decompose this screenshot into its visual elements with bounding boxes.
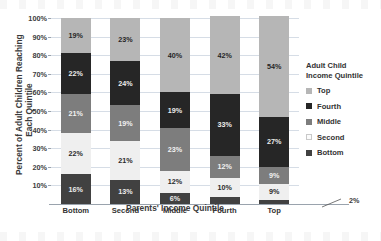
segment-value-label: 12% — [217, 163, 231, 170]
segment-value-label: 33% — [217, 121, 231, 128]
segment-value-label: 9% — [269, 188, 279, 195]
y-axis-tick-label: 80% — [32, 51, 47, 60]
segment-value-label: 23% — [118, 36, 132, 43]
segment-value-label: 19% — [168, 107, 182, 114]
legend-item-label: Bottom — [317, 148, 344, 157]
segment-value-label: 27% — [267, 138, 281, 145]
y-axis-tick-label: 70% — [32, 69, 47, 78]
bar-column-top[interactable]: 2%9%9%27%54% — [259, 16, 289, 204]
y-axis-tick-label: 40% — [32, 125, 47, 134]
scan-artifact-top — [0, 0, 381, 9]
legend-item-second[interactable]: Second — [306, 133, 378, 142]
y-axis-tick-label: 30% — [32, 144, 47, 153]
y-axis-tick-label: 10% — [32, 181, 47, 190]
bar-segment-fourth-middle[interactable]: 12% — [210, 156, 240, 178]
y-axis-tick-label: 100% — [28, 14, 47, 23]
scan-artifact-bottom — [0, 232, 381, 241]
bar-column-fourth[interactable]: 4%10%12%33%42% — [210, 16, 240, 204]
bar-segment-second-middle[interactable]: 19% — [110, 105, 140, 140]
x-axis-title: Parents' Income Quintile — [51, 203, 299, 213]
y-axis-title: Percent of Adult Children Reaching Each … — [14, 45, 34, 175]
legend-swatch-fourth-icon — [306, 103, 312, 109]
bar-segment-middle-top[interactable]: 40% — [160, 18, 190, 92]
y-axis-tick-mark — [48, 148, 51, 149]
legend-item-middle[interactable]: Middle — [306, 117, 378, 126]
legend-item-top[interactable]: Top — [306, 86, 378, 95]
segment-value-label: 10% — [217, 184, 231, 191]
segment-value-label: 12% — [168, 178, 182, 185]
legend-swatch-middle-icon — [306, 119, 312, 125]
legend-swatch-second-icon — [306, 134, 312, 140]
plot-area: 10%20%30%40%50%60%70%80%90%100%16%22%21%… — [51, 18, 299, 204]
bar-segment-middle-fourth[interactable]: 19% — [160, 92, 190, 127]
bar-column-middle[interactable]: 6%12%23%19%40% — [160, 18, 190, 204]
chart-container: Percent of Adult Children Reaching Each … — [0, 0, 381, 241]
bar-column-bottom[interactable]: 16%22%21%22%19% — [61, 18, 91, 204]
bar-segment-bottom-second[interactable]: 22% — [61, 133, 91, 174]
segment-value-label: 19% — [118, 120, 132, 127]
segment-value-label: 16% — [69, 186, 83, 193]
y-axis-tick-mark — [48, 167, 51, 168]
segment-value-label: 13% — [118, 188, 132, 195]
y-axis-tick-label: 90% — [32, 32, 47, 41]
bar-segment-fourth-fourth[interactable]: 33% — [210, 94, 240, 155]
legend-title: Adult Child Income Quintile — [306, 61, 378, 80]
y-axis-tick-label: 50% — [32, 107, 47, 116]
segment-value-label: 21% — [69, 110, 83, 117]
annotation-2-percent: 2% — [349, 196, 359, 205]
legend-swatch-bottom-icon — [306, 150, 312, 156]
bar-segment-fourth-top[interactable]: 42% — [210, 16, 240, 94]
y-axis-tick-label: 60% — [32, 88, 47, 97]
segment-value-label: 21% — [118, 157, 132, 164]
segment-value-label: 19% — [69, 32, 83, 39]
y-axis-tick-mark — [48, 18, 51, 19]
bar-segment-top-middle[interactable]: 9% — [259, 167, 289, 184]
bar-segment-middle-second[interactable]: 12% — [160, 171, 190, 193]
bar-segment-top-second[interactable]: 9% — [259, 184, 289, 201]
legend-swatch-top-icon — [306, 88, 312, 94]
bar-segment-bottom-middle[interactable]: 21% — [61, 94, 91, 133]
bar-segment-bottom-top[interactable]: 19% — [61, 18, 91, 53]
y-axis-tick-mark — [48, 37, 51, 38]
bar-segment-bottom-bottom[interactable]: 16% — [61, 174, 91, 204]
y-axis-tick-mark — [48, 111, 51, 112]
y-axis-tick-mark — [48, 130, 51, 131]
y-axis-tick-mark — [48, 185, 51, 186]
legend-title-line-1: Adult Child — [306, 61, 378, 71]
y-axis-tick-mark — [48, 55, 51, 56]
segment-value-label: 22% — [69, 150, 83, 157]
legend-item-fourth[interactable]: Fourth — [306, 102, 378, 111]
bar-segment-second-top[interactable]: 23% — [110, 18, 140, 61]
y-axis-tick-mark — [48, 92, 51, 93]
bar-segment-second-bottom[interactable]: 13% — [110, 180, 140, 204]
bar-segment-fourth-second[interactable]: 10% — [210, 178, 240, 197]
legend-item-label: Second — [317, 133, 344, 142]
bar-segment-second-fourth[interactable]: 24% — [110, 61, 140, 106]
bar-column-second[interactable]: 13%21%19%24%23% — [110, 18, 140, 204]
segment-value-label: 42% — [217, 52, 231, 59]
legend-title-line-2: Income Quintile — [306, 71, 378, 81]
bar-segment-middle-middle[interactable]: 23% — [160, 128, 190, 171]
segment-value-label: 23% — [168, 146, 182, 153]
segment-value-label: 9% — [269, 172, 279, 179]
segment-value-label: 6% — [170, 195, 180, 202]
segment-value-label: 40% — [168, 52, 182, 59]
bar-segment-top-fourth[interactable]: 27% — [259, 117, 289, 167]
y-axis-tick-mark — [48, 74, 51, 75]
segment-value-label: 54% — [267, 63, 281, 70]
bar-segment-bottom-fourth[interactable]: 22% — [61, 53, 91, 94]
segment-value-label: 22% — [69, 70, 83, 77]
bar-segment-second-second[interactable]: 21% — [110, 141, 140, 180]
legend-item-label: Middle — [317, 117, 341, 126]
y-axis-title-line-1: Percent of Adult Children Reaching — [14, 45, 24, 175]
legend-item-label: Fourth — [317, 102, 341, 111]
bar-segment-top-top[interactable]: 54% — [259, 16, 289, 116]
legend-item-bottom[interactable]: Bottom — [306, 148, 378, 157]
legend-item-label: Top — [317, 86, 330, 95]
y-axis-tick-label: 20% — [32, 162, 47, 171]
segment-value-label: 24% — [118, 80, 132, 87]
legend: Adult Child Income Quintile TopFourthMid… — [306, 61, 378, 164]
